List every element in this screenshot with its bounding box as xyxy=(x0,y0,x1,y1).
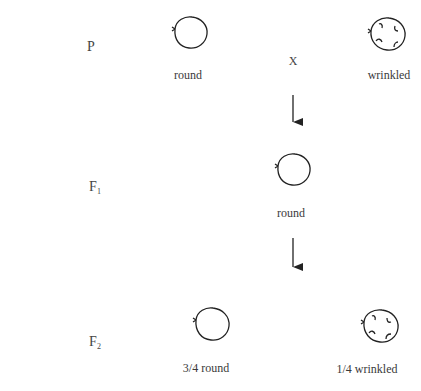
cross-symbol: X xyxy=(289,54,298,69)
diagram-canvas xyxy=(0,0,421,391)
generation-label-f2: F2 xyxy=(89,334,101,351)
generation-label-text: F xyxy=(89,179,97,194)
wrinkled-pea-icon xyxy=(361,310,398,342)
generation-label-text: F xyxy=(89,334,97,349)
phenotype-label-three-quarter-round: 3/4 round xyxy=(183,361,229,376)
round-pea-icon xyxy=(275,154,310,185)
phenotype-label-quarter-wrinkled: 1/4 wrinkled xyxy=(337,362,398,377)
phenotype-label-round: round xyxy=(277,206,305,221)
phenotype-label-round: round xyxy=(174,68,202,83)
wrinkled-pea-icon xyxy=(368,18,405,50)
generation-label-p: P xyxy=(87,39,95,55)
phenotype-label-wrinkled: wrinkled xyxy=(368,68,411,83)
round-pea-icon xyxy=(172,17,207,48)
generation-subscript: 1 xyxy=(97,187,101,196)
generation-label-text: P xyxy=(87,39,95,54)
generation-label-f1: F1 xyxy=(89,179,101,196)
generation-subscript: 2 xyxy=(97,342,101,351)
round-pea-icon xyxy=(193,308,229,340)
